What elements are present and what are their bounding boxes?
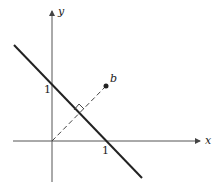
y-tick-one: 1 [44, 84, 51, 95]
x-axis-label: x [205, 135, 211, 146]
point-b-label: b [110, 73, 117, 84]
diagram-svg [0, 0, 221, 192]
diagram-canvas: y x 1 1 b [0, 0, 221, 192]
line-x-plus-y-equals-1 [14, 45, 142, 178]
y-axis-label: y [58, 6, 64, 17]
x-tick-one: 1 [102, 145, 109, 156]
point-b [104, 84, 109, 89]
